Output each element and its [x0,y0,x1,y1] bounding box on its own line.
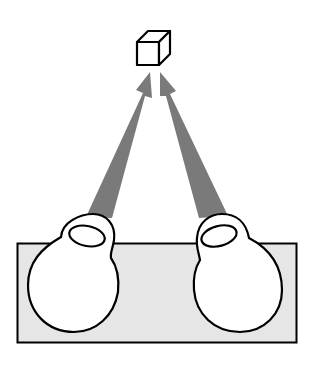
right-sightline-arrow [160,72,228,218]
left-eye-icon [28,214,118,332]
cube-icon [137,31,170,65]
binocular-vision-diagram: Binocular vision: two eyes viewing one o… [0,0,314,366]
right-eye-icon [194,214,282,332]
diagram-canvas [0,0,314,366]
left-sightline-arrow [86,72,152,218]
